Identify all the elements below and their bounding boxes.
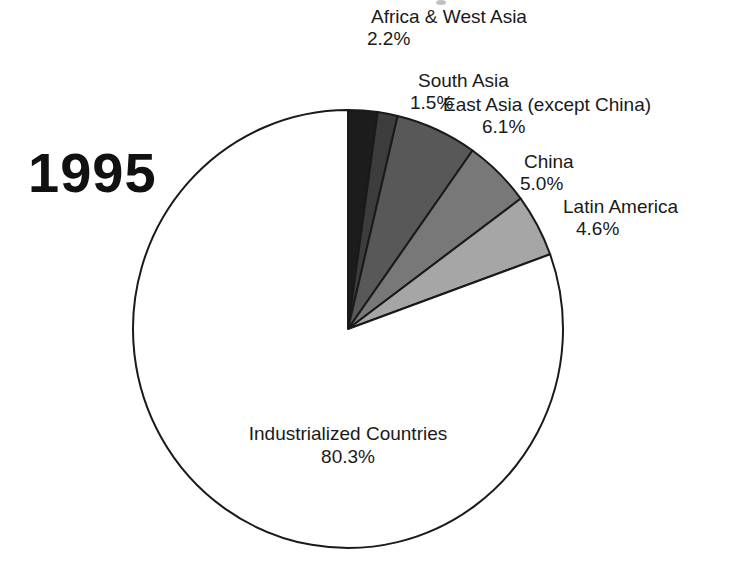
callout-china: China 5.0% (524, 151, 574, 194)
callout-latin-america: Latin America 4.6% (563, 196, 678, 239)
year-label: 1995 (28, 140, 157, 205)
pie-chart-svg (0, 0, 734, 570)
label-industrialized-countries: Industrialized Countries 80.3% (198, 423, 498, 469)
callout-latin-america-name: Latin America (563, 196, 678, 217)
callout-east-asia: East Asia (except China) 6.1% (443, 94, 651, 137)
label-industrialized-countries-value: 80.3% (198, 446, 498, 469)
label-industrialized-countries-name: Industrialized Countries (249, 423, 448, 444)
callout-east-asia-name: East Asia (except China) (443, 94, 651, 115)
callout-africa-west-asia-name: Africa & West Asia (371, 6, 527, 27)
pie-slices-group (133, 110, 563, 548)
callout-south-asia-name: South Asia (418, 70, 509, 91)
callout-latin-america-value: 4.6% (576, 218, 678, 240)
callout-africa-west-asia-value: 2.2% (367, 28, 527, 50)
callout-china-value: 5.0% (520, 173, 574, 195)
callout-east-asia-value: 6.1% (482, 116, 651, 138)
pie-chart-figure: 1995 Africa & West Asia 2.2% South Asia … (0, 0, 734, 570)
callout-africa-west-asia: Africa & West Asia 2.2% (371, 6, 527, 49)
callout-china-name: China (524, 151, 574, 172)
